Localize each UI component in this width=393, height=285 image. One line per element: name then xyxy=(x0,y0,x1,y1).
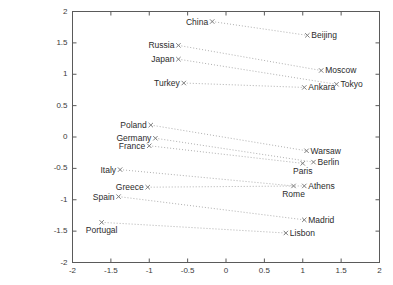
capital-label: Ankara xyxy=(308,83,335,92)
country-marker xyxy=(146,185,150,189)
x-tick-label: 0.5 xyxy=(259,267,270,275)
capital-marker xyxy=(284,231,288,235)
capital-label: Madrid xyxy=(308,216,334,225)
country-marker xyxy=(176,57,180,61)
country-label: Turkey xyxy=(154,79,180,88)
capital-marker xyxy=(311,160,315,164)
x-tick-label: -1 xyxy=(146,267,153,275)
country-marker xyxy=(116,194,120,198)
y-tick-label: 1 xyxy=(63,70,67,78)
y-tick-label: -0.5 xyxy=(54,164,68,172)
country-label: Russia xyxy=(148,41,174,50)
capital-marker xyxy=(301,161,305,165)
capital-label: Berlin xyxy=(317,158,339,167)
x-tick-label: 2 xyxy=(377,267,381,275)
connector-line xyxy=(178,45,321,70)
country-label: Greece xyxy=(116,183,144,192)
capital-marker xyxy=(302,184,306,188)
country-marker xyxy=(99,220,103,224)
capital-marker xyxy=(319,68,323,72)
country-label: Spain xyxy=(93,192,115,201)
capital-label: Warsaw xyxy=(311,147,341,156)
capital-marker xyxy=(302,218,306,222)
capital-label: Beijing xyxy=(311,31,337,40)
capital-label: Rome xyxy=(282,190,305,199)
x-tick-label: -1.5 xyxy=(104,267,118,275)
y-tick-label: 0 xyxy=(63,133,67,141)
capital-label: Athens xyxy=(308,182,334,191)
connector-line xyxy=(149,146,303,164)
connector-line xyxy=(155,138,313,162)
country-label: Italy xyxy=(100,165,116,174)
x-tick-label: -2 xyxy=(69,267,76,275)
connector-line xyxy=(151,125,307,151)
country-label: China xyxy=(186,17,208,26)
y-tick-label: -1 xyxy=(60,196,67,204)
capital-marker xyxy=(302,85,306,89)
connector-line xyxy=(178,59,336,84)
capital-label: Lisbon xyxy=(290,229,315,238)
x-tick-label: 1.5 xyxy=(336,267,347,275)
capital-marker xyxy=(305,33,309,37)
x-tick-label: 1 xyxy=(301,267,305,275)
capital-label: Paris xyxy=(293,167,312,176)
connector-line xyxy=(148,186,305,187)
y-tick-label: 0.5 xyxy=(56,102,67,110)
country-marker xyxy=(118,167,122,171)
y-tick-label: 2 xyxy=(63,8,67,16)
country-marker xyxy=(176,43,180,47)
country-marker xyxy=(147,144,151,148)
connector-line xyxy=(119,197,305,220)
country-marker xyxy=(210,19,214,23)
y-tick-label: -2 xyxy=(60,259,67,267)
x-tick-label: -0.5 xyxy=(181,267,195,275)
capital-label: Tokyo xyxy=(341,80,363,89)
x-tick-label: 0 xyxy=(224,267,228,275)
country-marker xyxy=(182,81,186,85)
country-marker xyxy=(149,123,153,127)
y-tick-label: -1.5 xyxy=(54,227,68,235)
connector-line xyxy=(184,83,304,87)
capital-label: Moscow xyxy=(325,66,356,75)
country-label: Japan xyxy=(151,55,174,64)
country-label: Poland xyxy=(120,121,146,130)
connector-line xyxy=(102,222,286,233)
scatter-plot-figure: -2-1.5-1-0.500.511.5221.510.50-0.5-1-1.5… xyxy=(0,0,393,285)
country-label: France xyxy=(119,142,145,151)
country-label: Portugal xyxy=(86,226,118,235)
y-tick-label: 1.5 xyxy=(56,39,67,47)
connector-line xyxy=(212,22,307,36)
connector-line xyxy=(120,170,293,186)
country-marker xyxy=(153,136,157,140)
